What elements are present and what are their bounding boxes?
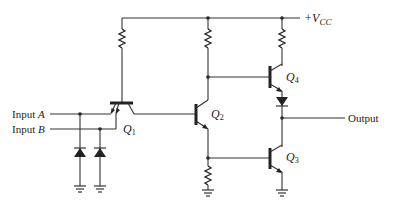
q4-label: Q4 — [286, 70, 299, 85]
clamp-diode-b — [94, 129, 106, 186]
ground-diode-a — [74, 186, 86, 192]
output-label: Output — [348, 112, 379, 124]
q1-label: Q1 — [123, 122, 136, 137]
resistor-r4 — [279, 18, 285, 66]
resistor-r1 — [119, 18, 125, 103]
clamp-diode-a — [74, 114, 86, 186]
resistor-r3 — [202, 158, 214, 196]
output-diode — [276, 97, 288, 106]
input-a-label: Input A — [12, 108, 45, 120]
input-b-label: Input B — [12, 123, 45, 135]
q2-label: Q2 — [211, 107, 224, 122]
vcc-rail — [122, 16, 300, 20]
resistor-r2 — [205, 18, 270, 100]
vcc-label: +VCC — [304, 11, 332, 27]
circuit-diagram: +VCC Q1 Input A Input B — [0, 0, 397, 211]
transistor-q4 — [270, 64, 282, 118]
transistor-q2 — [196, 100, 210, 160]
ground-diode-b — [94, 186, 106, 192]
q3-label: Q3 — [286, 150, 299, 165]
